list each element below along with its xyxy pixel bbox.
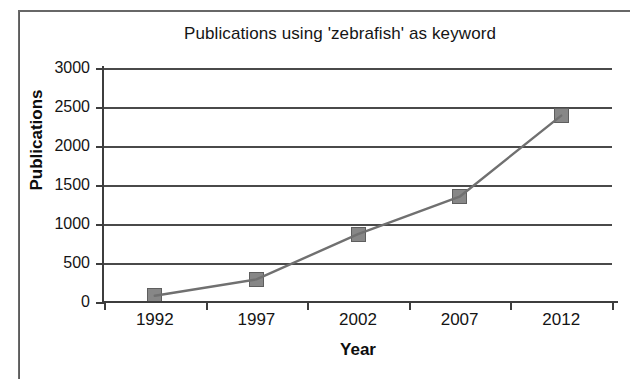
chart-figure: Publications using 'zebrafish' as keywor… <box>0 0 630 379</box>
series-line <box>0 0 630 379</box>
